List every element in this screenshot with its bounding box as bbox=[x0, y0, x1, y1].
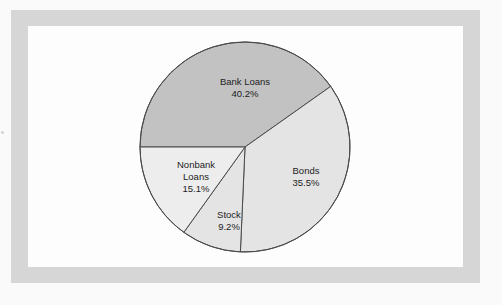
scan-artifact-speck bbox=[1, 131, 4, 134]
plot-area bbox=[28, 26, 463, 267]
figure-page: Bank Loans40.2%Bonds35.5%Stock9.2%Nonban… bbox=[0, 0, 502, 305]
